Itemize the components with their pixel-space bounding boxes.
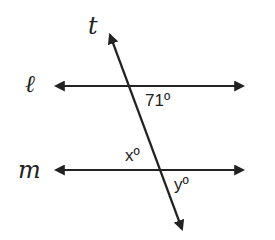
- label-l: ℓ: [25, 72, 35, 96]
- transversal-t: [110, 35, 182, 229]
- angle-x-label: xº: [125, 147, 140, 164]
- geometry-figure: [0, 0, 275, 240]
- angle-71-label: 71º: [145, 92, 170, 109]
- diagram-canvas: t ℓ m 71º xº yº: [0, 0, 275, 240]
- label-m: m: [18, 158, 41, 182]
- angle-y-label: yº: [174, 176, 189, 193]
- label-t: t: [88, 14, 98, 38]
